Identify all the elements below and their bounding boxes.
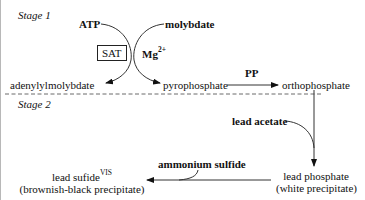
lead-phosphate-label: lead phosphate (white precipitate) xyxy=(276,170,356,194)
atp-label: ATP xyxy=(79,18,100,30)
pyrophosphate-label: pyrophosphate xyxy=(163,79,228,91)
lead-sulfide-note: (brownish-black precipitate) xyxy=(18,183,146,195)
ammonium-sulfide-curve xyxy=(179,170,198,180)
stage-2-label: Stage 2 xyxy=(18,98,51,110)
lead-sulfide-label: lead sufideVIS (brownish-black precipita… xyxy=(18,171,146,195)
lead-phosphate-name: lead phosphate xyxy=(276,170,356,182)
mg-cofactor-label: Mg2+ xyxy=(142,48,166,60)
lead-sulfide-text: lead sufide xyxy=(52,171,100,183)
vis-superscript: VIS xyxy=(100,168,112,177)
lead-sulfide-name: lead sufideVIS xyxy=(18,171,146,183)
stage-1-label: Stage 1 xyxy=(18,9,51,21)
orthophosphate-label: orthophosphate xyxy=(282,79,350,91)
mg-charge: 2+ xyxy=(158,45,166,54)
lead-acetate-arrow xyxy=(285,121,314,148)
lead-phosphate-note: (white precipitate) xyxy=(276,182,356,194)
sat-enzyme-box: SAT xyxy=(97,45,127,61)
lead-acetate-label: lead acetate xyxy=(232,115,287,127)
mg-text: Mg xyxy=(142,48,158,60)
sat-label: SAT xyxy=(102,47,122,59)
adenylylmolybdate-label: adenylylmolybdate xyxy=(10,79,94,91)
reaction-diagram: Stage 1 ATP molybdate SAT Mg2+ adenylylm… xyxy=(0,0,365,200)
ammonium-sulfide-label: ammonium sulfide xyxy=(158,158,246,170)
molybdate-label: molybdate xyxy=(165,18,215,30)
pp-label: PP xyxy=(245,67,258,79)
